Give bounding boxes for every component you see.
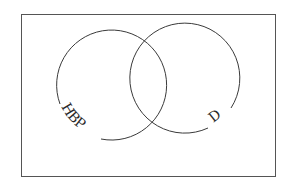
set-label-hbp: HBP: [58, 100, 88, 132]
venn-diagram: HBP D: [0, 0, 283, 179]
set-circle-d: [130, 23, 240, 133]
set-label-d: D: [205, 106, 224, 126]
